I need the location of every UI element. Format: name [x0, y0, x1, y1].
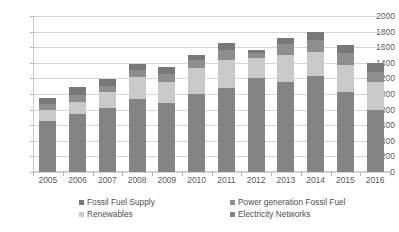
- bar-group[interactable]: [39, 16, 56, 172]
- bar-group[interactable]: [188, 16, 205, 172]
- legend-label: Electricity Networks: [238, 210, 310, 219]
- bar-segment[interactable]: [69, 95, 86, 102]
- bar-segment[interactable]: [158, 103, 175, 172]
- bar-segment[interactable]: [188, 55, 205, 60]
- bar-segment[interactable]: [99, 79, 116, 86]
- bar-segment[interactable]: [337, 65, 354, 92]
- bars-layer: [33, 16, 390, 172]
- bar-segment[interactable]: [188, 60, 205, 68]
- bar-segment[interactable]: [218, 60, 235, 88]
- legend-label: Fossil Fuel Supply: [87, 198, 155, 207]
- bar-segment[interactable]: [129, 77, 146, 100]
- bar-segment[interactable]: [337, 92, 354, 172]
- bar-segment[interactable]: [99, 108, 116, 172]
- bar-group[interactable]: [277, 16, 294, 172]
- bar-segment[interactable]: [129, 99, 146, 172]
- bar-segment[interactable]: [248, 53, 265, 58]
- legend-swatch-icon: [79, 212, 84, 217]
- bar-segment[interactable]: [248, 58, 265, 78]
- bar-group[interactable]: [248, 16, 265, 172]
- legend-item[interactable]: Power generation Fossil Fuel: [230, 198, 345, 207]
- stacked-bar-chart: 0200400600800100012001400160018002000 20…: [0, 0, 399, 232]
- legend-label: Renewables: [87, 210, 133, 219]
- bar-segment[interactable]: [277, 55, 294, 82]
- bar-segment[interactable]: [218, 50, 235, 59]
- bar-segment[interactable]: [69, 114, 86, 173]
- legend-swatch-icon: [79, 200, 84, 205]
- bar-group[interactable]: [307, 16, 324, 172]
- bar-segment[interactable]: [39, 110, 56, 120]
- bar-segment[interactable]: [129, 70, 146, 77]
- bar-group[interactable]: [69, 16, 86, 172]
- bar-segment[interactable]: [158, 82, 175, 103]
- bar-segment[interactable]: [39, 104, 56, 110]
- bar-segment[interactable]: [337, 45, 354, 54]
- bar-segment[interactable]: [158, 74, 175, 82]
- bar-segment[interactable]: [367, 82, 384, 109]
- legend-label: Power generation Fossil Fuel: [238, 198, 345, 207]
- bar-segment[interactable]: [188, 94, 205, 172]
- bar-segment[interactable]: [307, 32, 324, 40]
- bar-segment[interactable]: [158, 67, 175, 74]
- bar-group[interactable]: [129, 16, 146, 172]
- bar-segment[interactable]: [188, 68, 205, 94]
- bar-group[interactable]: [218, 16, 235, 172]
- bar-segment[interactable]: [218, 43, 235, 50]
- bar-segment[interactable]: [367, 63, 384, 72]
- chart-legend: Fossil Fuel SupplyPower generation Fossi…: [0, 198, 399, 228]
- bar-segment[interactable]: [39, 121, 56, 172]
- bar-segment[interactable]: [307, 76, 324, 172]
- bar-segment[interactable]: [277, 38, 294, 44]
- bar-segment[interactable]: [39, 98, 56, 104]
- bar-segment[interactable]: [307, 52, 324, 76]
- legend-swatch-icon: [230, 200, 235, 205]
- bar-segment[interactable]: [248, 78, 265, 172]
- bar-group[interactable]: [99, 16, 116, 172]
- bar-segment[interactable]: [69, 102, 86, 114]
- bar-segment[interactable]: [367, 110, 384, 172]
- bar-segment[interactable]: [248, 50, 265, 53]
- plot-area: [33, 16, 390, 172]
- bar-group[interactable]: [158, 16, 175, 172]
- bar-segment[interactable]: [99, 86, 116, 93]
- bar-group[interactable]: [337, 16, 354, 172]
- bar-segment[interactable]: [277, 82, 294, 172]
- bar-segment[interactable]: [99, 92, 116, 108]
- bar-segment[interactable]: [307, 40, 324, 52]
- bar-group[interactable]: [367, 16, 384, 172]
- legend-item[interactable]: Renewables: [79, 210, 133, 219]
- legend-item[interactable]: Electricity Networks: [230, 210, 310, 219]
- x-axis-tick-label: 2016: [357, 176, 393, 185]
- bar-segment[interactable]: [69, 87, 86, 95]
- bar-segment[interactable]: [367, 72, 384, 82]
- bar-segment[interactable]: [218, 88, 235, 172]
- bar-segment[interactable]: [277, 44, 294, 55]
- legend-swatch-icon: [230, 212, 235, 217]
- legend-item[interactable]: Fossil Fuel Supply: [79, 198, 155, 207]
- bar-segment[interactable]: [129, 64, 146, 70]
- bar-segment[interactable]: [337, 53, 354, 65]
